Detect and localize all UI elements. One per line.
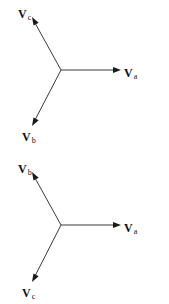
vector-vc-line [35, 225, 61, 276]
label-subscript: b [28, 168, 32, 177]
label-va-bottom: Va [124, 219, 137, 236]
label-vb-bottom: Vb [18, 160, 32, 177]
label-symbol: V [22, 130, 31, 144]
vector-vb-line [35, 70, 61, 120]
vector-vc-arrowhead-icon [32, 17, 39, 26]
vector-vb-line [35, 178, 61, 225]
vector-vb-arrowhead-icon [32, 172, 39, 181]
label-subscript: a [134, 72, 138, 81]
phasor-diagram-abc [32, 17, 121, 126]
label-subscript: b [32, 136, 36, 145]
vector-vc-arrowhead-icon [32, 273, 39, 282]
label-vc-bottom: Vc [22, 284, 35, 301]
label-subscript: c [28, 13, 32, 22]
label-subscript: c [32, 292, 36, 301]
label-vb-top: Vb [22, 128, 36, 145]
label-symbol: V [18, 162, 27, 176]
label-symbol: V [124, 66, 133, 80]
vector-vc-line [35, 23, 61, 70]
label-symbol: V [22, 286, 31, 300]
phasor-diagrams-canvas [0, 0, 169, 304]
vector-va-arrowhead-icon [113, 222, 121, 228]
label-symbol: V [124, 221, 133, 235]
label-vc-top: Vc [18, 5, 31, 22]
vector-vb-arrowhead-icon [32, 117, 39, 126]
label-subscript: a [134, 227, 138, 236]
label-va-top: Va [124, 64, 137, 81]
phasor-diagram-acb [32, 172, 121, 282]
vector-va-arrowhead-icon [113, 67, 121, 73]
label-symbol: V [18, 7, 27, 21]
